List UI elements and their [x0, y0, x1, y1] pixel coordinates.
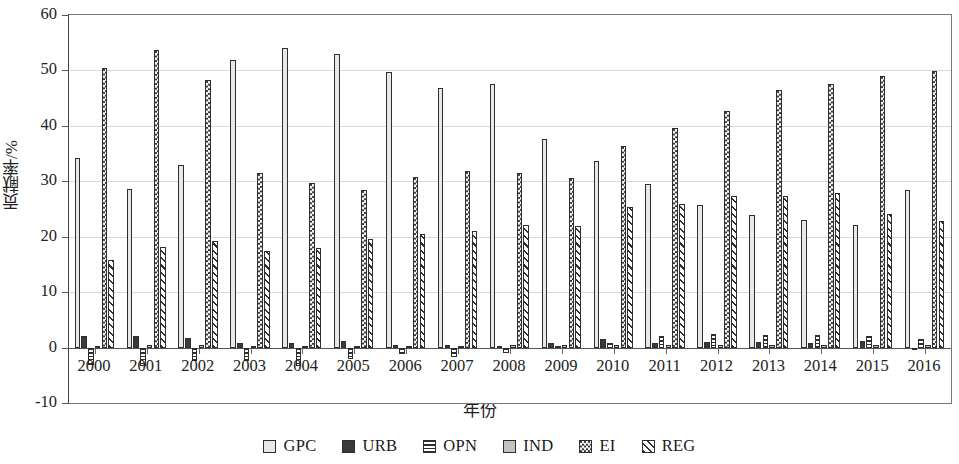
- x-tick-label-2006: 2006: [378, 356, 432, 376]
- y-tick-mark: [62, 237, 69, 238]
- bar-gpc-2016: [905, 190, 911, 347]
- x-tick-label-2010: 2010: [586, 356, 640, 376]
- y-tick-mark: [62, 292, 69, 293]
- gridline: [69, 70, 951, 71]
- bar-reg-2004: [316, 248, 322, 347]
- bar-reg-2015: [887, 214, 893, 348]
- legend-item-ei[interactable]: EI: [579, 436, 615, 456]
- legend-swatch-reg-icon: [642, 440, 655, 453]
- legend-swatch-gpc-icon: [263, 440, 276, 453]
- legend-item-ind[interactable]: IND: [503, 436, 553, 456]
- x-tick-label-2008: 2008: [482, 356, 536, 376]
- bar-opn-2011: [659, 336, 665, 347]
- bar-reg-2010: [627, 207, 633, 348]
- x-tick-label-2000: 2000: [67, 356, 121, 376]
- bar-gpc-2006: [386, 72, 392, 347]
- x-tick-mark: [302, 348, 303, 354]
- x-tick-label-2004: 2004: [274, 356, 328, 376]
- bar-reg-2011: [679, 204, 685, 348]
- bar-opn-2013: [763, 335, 769, 347]
- bar-gpc-2003: [230, 60, 236, 347]
- x-tick-mark: [666, 348, 667, 354]
- y-tick-label: 30: [11, 172, 57, 189]
- bar-urb-2005: [341, 341, 347, 347]
- bar-urb-2016: [912, 348, 918, 350]
- y-tick-mark: [62, 181, 69, 182]
- bar-ei-2012: [724, 111, 730, 348]
- bar-opn-2016: [918, 339, 924, 348]
- bar-reg-2013: [783, 196, 789, 347]
- bar-urb-2003: [237, 343, 243, 347]
- y-tick-label: 60: [11, 6, 57, 23]
- x-tick-label-2016: 2016: [897, 356, 951, 376]
- x-tick-label-2009: 2009: [534, 356, 588, 376]
- bar-opn-2012: [711, 334, 717, 347]
- x-tick-label-2013: 2013: [741, 356, 795, 376]
- bar-gpc-2008: [490, 84, 496, 347]
- x-tick-mark: [510, 348, 511, 354]
- x-tick-mark: [354, 348, 355, 354]
- x-tick-mark: [562, 348, 563, 354]
- bar-ei-2013: [776, 90, 782, 348]
- y-tick-mark: [62, 70, 69, 71]
- bar-ei-2003: [257, 173, 263, 348]
- legend-label: GPC: [283, 436, 316, 456]
- bar-reg-2012: [731, 196, 737, 347]
- bar-gpc-2014: [801, 220, 807, 348]
- x-tick-mark: [769, 348, 770, 354]
- plot-area: 6050403020100-10: [68, 14, 952, 404]
- chart-legend: GPCURBOPNINDEIREG: [0, 436, 959, 456]
- y-tick-label: 10: [11, 283, 57, 300]
- bar-gpc-2009: [542, 139, 548, 348]
- bar-ei-2010: [621, 146, 627, 348]
- bar-opn-2014: [815, 335, 821, 348]
- bar-gpc-2000: [75, 158, 81, 348]
- bar-urb-2007: [445, 345, 451, 347]
- x-tick-mark: [925, 348, 926, 354]
- gridline: [69, 292, 951, 293]
- bar-opn-2006: [399, 348, 405, 355]
- legend-label: REG: [662, 436, 696, 456]
- bar-gpc-2004: [282, 48, 288, 347]
- y-tick-mark: [62, 403, 69, 404]
- y-tick-label: 40: [11, 117, 57, 134]
- bar-reg-2003: [264, 251, 270, 347]
- legend-label: IND: [523, 436, 553, 456]
- bar-ei-2006: [413, 177, 419, 348]
- x-tick-mark: [199, 348, 200, 354]
- gridline: [69, 181, 951, 182]
- bar-urb-2014: [808, 343, 814, 348]
- bar-reg-2002: [212, 241, 218, 347]
- bar-gpc-2007: [438, 88, 444, 348]
- bar-reg-2006: [420, 234, 426, 347]
- legend-item-reg[interactable]: REG: [642, 436, 696, 456]
- bar-reg-2008: [523, 225, 529, 347]
- x-tick-mark: [251, 348, 252, 354]
- x-tick-mark: [821, 348, 822, 354]
- bar-ei-2016: [932, 71, 938, 348]
- bar-urb-2015: [860, 341, 866, 347]
- bar-urb-2000: [81, 336, 87, 347]
- legend-label: OPN: [443, 436, 477, 456]
- legend-item-urb[interactable]: URB: [342, 436, 397, 456]
- bar-urb-2012: [704, 342, 710, 348]
- bar-urb-2013: [756, 342, 762, 348]
- bar-reg-2000: [108, 260, 114, 348]
- legend-item-gpc[interactable]: GPC: [263, 436, 316, 456]
- legend-swatch-ind-icon: [503, 440, 516, 453]
- bar-urb-2004: [289, 343, 295, 347]
- y-tick-mark: [62, 348, 69, 349]
- bar-opn-2015: [866, 336, 872, 347]
- x-tick-label-2014: 2014: [793, 356, 847, 376]
- x-tick-label-2015: 2015: [845, 356, 899, 376]
- bar-reg-2009: [575, 226, 581, 348]
- bar-urb-2011: [652, 343, 658, 348]
- legend-item-opn[interactable]: OPN: [423, 436, 477, 456]
- y-tick-mark: [62, 126, 69, 127]
- gridline: [69, 126, 951, 127]
- chart-figure: 贡献率/% 年份 6050403020100-10 GPCURBOPNINDEI…: [0, 0, 959, 464]
- bar-urb-2001: [133, 336, 139, 347]
- bar-gpc-2015: [853, 225, 859, 347]
- bar-ei-2008: [517, 173, 523, 348]
- bar-ei-2004: [309, 183, 315, 348]
